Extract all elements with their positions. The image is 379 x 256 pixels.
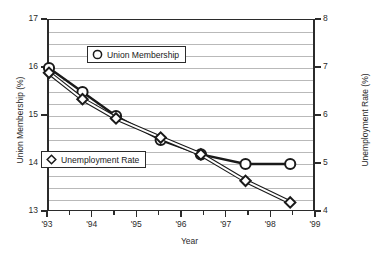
circle-marker-icon bbox=[92, 49, 103, 60]
left-axis-tick-label: 17 bbox=[8, 14, 38, 23]
right-axis-tick-label: 5 bbox=[323, 158, 349, 167]
x-axis-tick-label: '95 bbox=[121, 220, 151, 229]
data-point-union-membership bbox=[240, 159, 250, 169]
x-axis-tick-label: '98 bbox=[255, 220, 285, 229]
right-axis-tick-label: 6 bbox=[323, 110, 349, 119]
x-axis-tick-label: '97 bbox=[211, 220, 241, 229]
legend-union-membership: Union Membership bbox=[87, 46, 186, 63]
x-axis-tick bbox=[46, 211, 48, 217]
x-axis-tick-label: '96 bbox=[166, 220, 196, 229]
legend-unemployment-rate-label: Unemployment Rate bbox=[61, 155, 139, 165]
data-point-union-membership bbox=[285, 159, 295, 169]
left-axis-title: Union Membership (%) bbox=[15, 40, 25, 200]
right-axis-tick-label: 4 bbox=[323, 206, 349, 215]
x-axis-tick-label: '94 bbox=[77, 220, 107, 229]
x-axis-title: Year bbox=[0, 236, 379, 246]
diamond-marker-icon bbox=[46, 154, 57, 165]
left-axis-tick-label: 13 bbox=[8, 206, 38, 215]
series-line-union-membership bbox=[49, 68, 290, 164]
right-axis-tick-label: 8 bbox=[323, 14, 349, 23]
right-axis-title: Unemployment Rate (%) bbox=[360, 40, 370, 200]
right-axis-tick-label: 7 bbox=[323, 62, 349, 71]
legend-union-membership-label: Union Membership bbox=[107, 50, 179, 60]
legend-unemployment-rate: Unemployment Rate bbox=[41, 151, 146, 168]
x-axis-tick-label: '99 bbox=[300, 220, 330, 229]
x-axis-tick-label: '93 bbox=[32, 220, 62, 229]
chart-container: 1314151617 45678 '93'94'95'96'97'98'99 U… bbox=[0, 0, 379, 256]
